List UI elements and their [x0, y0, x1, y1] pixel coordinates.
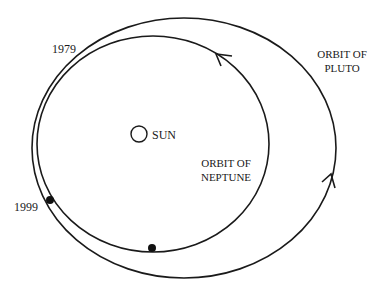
label-pluto-orbit-line2: PLUTO: [324, 62, 359, 74]
orbit-diagram: 1979 1999 SUN ORBIT OF PLUTO ORBIT OF NE…: [0, 0, 371, 291]
label-neptune-orbit-line2: NEPTUNE: [201, 171, 251, 183]
label-sun: SUN: [152, 128, 176, 142]
neptune-orbit: [37, 36, 269, 252]
label-neptune-orbit-line1: ORBIT OF: [201, 157, 251, 169]
label-pluto-orbit-line1: ORBIT OF: [317, 48, 367, 60]
arrow-neptune-icon: [216, 54, 232, 66]
marker-1999: [46, 196, 54, 204]
label-1999: 1999: [14, 200, 38, 214]
label-1979: 1979: [52, 42, 76, 56]
pluto-orbit: [32, 18, 336, 278]
marker-neptune: [148, 244, 156, 252]
sun-icon: [131, 126, 147, 142]
